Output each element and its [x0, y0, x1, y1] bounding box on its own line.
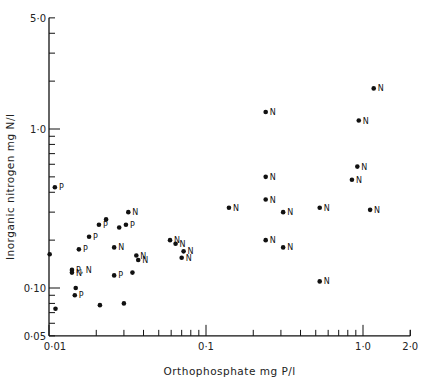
data-point: [70, 270, 75, 275]
y-tick-label: 0·05: [24, 331, 46, 342]
data-point-label: N: [132, 208, 138, 217]
data-point: [97, 222, 102, 227]
data-point-label: N: [287, 208, 293, 217]
data-point-label: N: [324, 277, 330, 286]
data-point-label: N: [76, 269, 82, 278]
data-point: [73, 286, 78, 291]
data-point: [53, 306, 58, 311]
data-point: [73, 293, 78, 298]
data-point: [112, 245, 117, 250]
data-point-label: P: [93, 233, 98, 242]
data-point: [47, 252, 52, 257]
data-point: [130, 270, 135, 275]
data-point: [263, 175, 268, 180]
data-point: [350, 177, 355, 182]
data-point-label: N: [270, 196, 276, 205]
data-point: [368, 208, 373, 213]
data-point: [263, 110, 268, 115]
x-tick-label: 2·0: [402, 341, 418, 352]
data-point-label: N: [356, 176, 362, 185]
data-point: [317, 279, 322, 284]
data-point-label: N: [378, 84, 384, 93]
data-point-label: N: [270, 108, 276, 117]
data-point-label: N: [233, 204, 239, 213]
x-tick-label: 0·01: [44, 341, 66, 352]
ratio-line-label: N:P = 10:1: [168, 0, 222, 2]
y-tick-label: 5·0: [30, 13, 46, 24]
data-point-label: N: [270, 173, 276, 182]
data-point: [104, 217, 109, 222]
data-point: [179, 255, 184, 260]
data-point: [263, 197, 268, 202]
scatter-chart: 0·010·11·02·00·050·101·05·0Orthophosphat…: [0, 0, 426, 381]
data-point-label: N: [142, 256, 148, 265]
data-point-label: N: [363, 117, 369, 126]
data-point-label: N: [186, 254, 192, 263]
data-point: [98, 303, 103, 308]
data-point: [168, 238, 173, 243]
data-point-label: P: [118, 271, 123, 280]
data-point-label: N: [270, 236, 276, 245]
data-point-label: P: [103, 221, 108, 230]
data-point: [53, 185, 58, 190]
data-point-label: P: [130, 221, 135, 230]
data-point: [122, 301, 127, 306]
data-point-label: P: [59, 183, 64, 192]
data-point-label: P: [83, 245, 88, 254]
x-tick-label: 0·1: [198, 341, 214, 352]
data-point: [77, 247, 82, 252]
data-point-label: N: [287, 243, 293, 252]
data-point: [126, 210, 131, 215]
data-point-label: N: [374, 206, 380, 215]
data-point: [124, 222, 129, 227]
y-tick-label: 1·0: [30, 124, 46, 135]
data-point-label: N: [180, 240, 186, 249]
data-point: [87, 234, 92, 239]
data-point: [281, 245, 286, 250]
data-point: [136, 258, 141, 263]
data-point: [371, 86, 376, 91]
x-tick-label: 1·0: [355, 341, 371, 352]
data-point: [227, 205, 232, 210]
data-point: [281, 210, 286, 215]
data-point: [355, 164, 360, 169]
data-point-label: N: [118, 243, 124, 252]
data-point: [173, 241, 178, 246]
data-point: [117, 225, 122, 230]
data-point-label: N: [361, 163, 367, 172]
data-point-label: N: [324, 204, 330, 213]
data-point: [134, 253, 139, 258]
y-tick-label: 0·10: [24, 283, 46, 294]
y-axis-title: Inorganic nitrogen mg N/l: [4, 114, 16, 260]
data-point: [112, 273, 117, 278]
data-point: [356, 118, 361, 123]
x-axis-title: Orthophosphate mg P/l: [164, 365, 296, 377]
data-point: [263, 238, 268, 243]
data-point: [317, 205, 322, 210]
data-point-label: P: [79, 291, 84, 300]
